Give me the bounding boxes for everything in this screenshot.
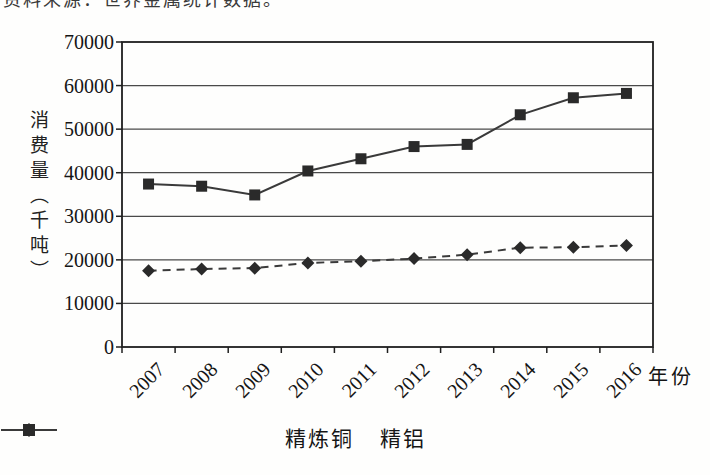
marker-diamond — [142, 264, 155, 277]
page: 资料来源：世界金属统计数据。 消费量（千吨） 01000020000300004… — [0, 0, 710, 475]
marker-square — [196, 181, 207, 192]
y-tick-label: 0 — [0, 337, 114, 357]
x-axis-title: 年份 — [648, 361, 694, 390]
y-tick-label: 20000 — [0, 250, 114, 270]
marker-diamond — [620, 239, 633, 252]
legend-item-aluminum: 精铝 — [380, 422, 426, 452]
legend-label-aluminum: 精铝 — [380, 422, 426, 452]
y-tick-label: 60000 — [0, 76, 114, 96]
y-tick-label: 40000 — [0, 163, 114, 183]
marker-square — [568, 92, 579, 103]
marker-square — [302, 165, 313, 176]
legend-item-refined-copper: 精炼铜 — [285, 422, 354, 452]
y-tick-label: 10000 — [0, 293, 114, 313]
marker-diamond — [248, 262, 261, 275]
marker-square — [249, 189, 260, 200]
plot-border — [122, 42, 653, 347]
marker-diamond — [408, 252, 421, 265]
series-line-diamond — [149, 246, 627, 271]
marker-diamond — [195, 263, 208, 276]
legend: 精炼铜 精铝 — [0, 422, 710, 452]
marker-square — [515, 109, 526, 120]
y-tick-label: 30000 — [0, 206, 114, 226]
marker-square — [462, 139, 473, 150]
marker-square — [621, 88, 632, 99]
line-chart: 消费量（千吨） 01000020000300004000050000600007… — [0, 0, 710, 475]
y-tick-label: 70000 — [0, 32, 114, 52]
solid-line-square-marker-icon — [0, 422, 58, 438]
marker-diamond — [461, 248, 474, 261]
marker-diamond — [567, 241, 580, 254]
y-tick-label: 50000 — [0, 119, 114, 139]
marker-diamond — [301, 256, 314, 269]
legend-label-refined-copper: 精炼铜 — [285, 422, 354, 452]
series-line-square — [149, 93, 627, 194]
marker-diamond — [514, 241, 527, 254]
marker-square — [143, 179, 154, 190]
marker-diamond — [354, 255, 367, 268]
marker-square — [355, 153, 366, 164]
marker-square — [409, 141, 420, 152]
